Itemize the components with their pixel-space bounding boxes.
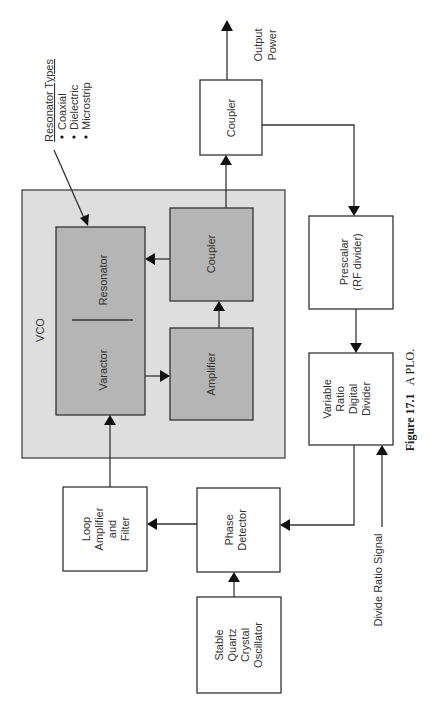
divider-label-4: Divider — [360, 382, 372, 417]
arrowhead-icon — [221, 20, 233, 31]
resonator-type-dielectric: Dielectric — [68, 84, 80, 130]
resonator-types-title: Resonator Types — [43, 59, 55, 142]
osc-label-4: Oscillator — [252, 622, 264, 668]
divider-label-3: Digital — [347, 384, 359, 415]
loop-label-2: Amplifier — [93, 507, 105, 550]
figure-caption: Figure 17.1A PLO. — [403, 349, 417, 451]
bullet-icon — [60, 135, 63, 138]
plo-diagram: VCO Resonator Varactor Coupler Amplifier… — [0, 0, 430, 712]
resonator-label: Resonator — [97, 254, 109, 305]
osc-label-2: Quartz — [226, 628, 238, 661]
loop-label-3: and — [106, 520, 118, 538]
divider-label-2: Ratio — [334, 386, 346, 412]
arrowhead-icon — [376, 445, 388, 455]
amplifier-label: Amplifier — [205, 352, 217, 395]
prescalar-label-2: (RF divider) — [351, 233, 363, 290]
osc-label-1: Stable — [213, 629, 225, 660]
bullet-icon — [72, 135, 75, 138]
prescalar-label-1: Prescalar — [338, 238, 350, 285]
phase-detector-label-1: Phase — [223, 514, 235, 545]
arrowhead-icon — [348, 206, 360, 216]
divider-to-phase-line — [288, 445, 354, 525]
figure-number: Figure 17.1 — [403, 393, 417, 451]
osc-label-3: Crystal — [239, 628, 251, 662]
loop-label-1: Loop — [80, 517, 92, 541]
resonator-type-microstrip: Microstrip — [80, 82, 92, 130]
arrowhead-icon — [220, 155, 232, 165]
vco-label: VCO — [34, 318, 46, 342]
phase-detector-label-2: Detector — [236, 509, 248, 551]
output-coupler-label: Coupler — [225, 98, 237, 137]
arrowhead-icon — [280, 519, 290, 531]
arrowhead-icon — [147, 518, 157, 530]
vco-coupler-label: Coupler — [205, 234, 217, 273]
arrowhead-icon — [228, 572, 240, 582]
loop-label-4: Filter — [119, 516, 131, 541]
bullet-icon — [84, 135, 87, 138]
divider-label-1: Variable — [321, 379, 333, 419]
figure-title: A PLO. — [403, 349, 417, 386]
output-power-label-2: Power — [266, 29, 278, 61]
loop-amplifier-filter-block — [63, 487, 147, 571]
arrowhead-icon — [350, 343, 362, 353]
divide-ratio-signal-label: Divide Ratio Signal — [372, 534, 384, 627]
varactor-label: Varactor — [97, 349, 109, 390]
output-power-label-1: Output — [252, 28, 264, 61]
resonator-type-coaxial: Coaxial — [56, 93, 68, 130]
